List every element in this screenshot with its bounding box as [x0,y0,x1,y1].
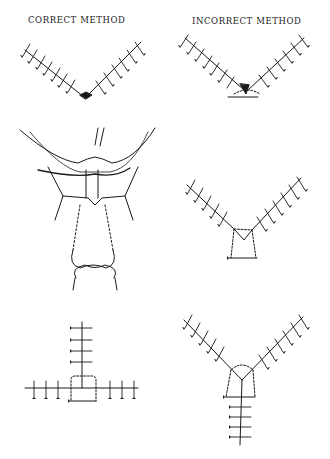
t-corner-stitch-diagram [25,322,138,403]
y-corner-stitch-diagram [182,315,310,445]
v-correct-diagram [20,42,146,99]
tissue-corner-stitch-diagram [20,128,155,290]
v-incorrect-diagram [178,35,310,97]
v-corner-stitch-diagram [185,177,308,260]
